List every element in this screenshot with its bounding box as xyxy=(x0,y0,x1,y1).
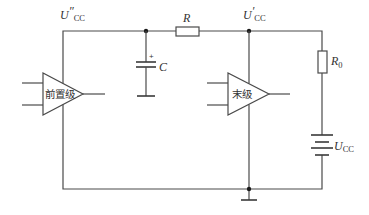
resistor-r0-body xyxy=(318,51,327,73)
label-preamp: 前置级 xyxy=(45,88,76,100)
bottom-rail xyxy=(63,115,322,189)
label-r0: R0 xyxy=(330,54,343,70)
ground-rail-wire xyxy=(63,115,322,189)
resistor-r-body xyxy=(176,27,199,36)
circuit-diagram: U″CC + C R U′CC 前置级 末级 xyxy=(0,0,369,215)
label-u-double-prime-cc: U″CC xyxy=(60,4,85,23)
capacitor-plus-sign: + xyxy=(149,52,154,61)
resistor-r0: R0 xyxy=(318,51,343,135)
resistor-r: R xyxy=(176,11,199,36)
label-final-stage: 末级 xyxy=(232,88,253,100)
label-c: C xyxy=(159,60,168,74)
label-u-prime-cc: U′CC xyxy=(243,4,266,23)
label-ucc: UCC xyxy=(334,139,354,154)
junction-dot-ground xyxy=(247,187,251,191)
label-r: R xyxy=(182,11,191,25)
top-rail xyxy=(63,31,322,73)
capacitor-c: + C xyxy=(136,31,168,96)
rail-to-r0-wire xyxy=(199,31,322,51)
battery-ucc: UCC xyxy=(311,135,354,155)
